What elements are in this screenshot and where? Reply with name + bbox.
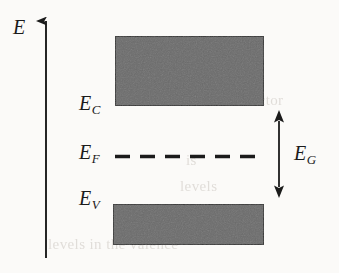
conduction-band (115, 36, 264, 106)
valence-band-rect (113, 204, 264, 245)
diagram-layer (0, 0, 339, 273)
band-gap-label-sub: G (307, 152, 316, 167)
band-gap-arrow-head-down (274, 186, 284, 199)
conduction-band-edge-label: EC (79, 93, 100, 116)
fermi-level-label-sub: F (92, 151, 100, 166)
valence-band-edge-label: EV (79, 188, 100, 211)
energy-axis-label-main: E (13, 16, 25, 38)
diagram-svg (0, 0, 339, 273)
band-gap-arrow-head-up (274, 110, 284, 123)
conduction-band-edge-label-main: E (79, 92, 91, 114)
valence-band (113, 204, 264, 245)
energy-axis-label: E (13, 17, 26, 40)
fermi-level-label-main: E (79, 141, 91, 163)
conduction-band-rect (115, 36, 264, 106)
band-gap-arrow (274, 110, 284, 198)
band-gap-label: EG (294, 143, 316, 166)
band-gap-label-main: E (294, 142, 306, 164)
energy-band-diagram-figure: which semiconductor is levels to levels … (0, 0, 339, 273)
fermi-level-label: EF (79, 142, 100, 165)
valence-band-edge-label-main: E (79, 187, 91, 209)
valence-band-edge-label-sub: V (92, 197, 100, 212)
conduction-band-edge-label-sub: C (92, 102, 101, 117)
